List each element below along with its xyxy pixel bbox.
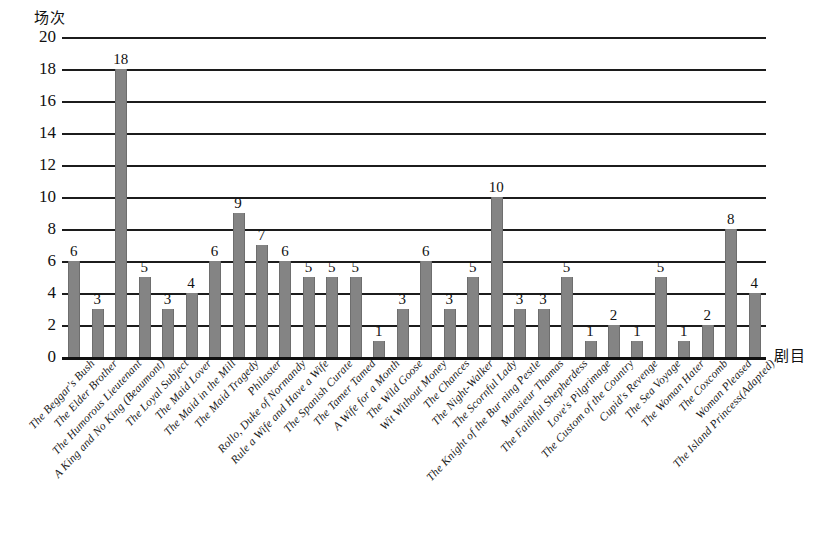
bar[interactable] (420, 261, 432, 357)
bar[interactable] (303, 277, 315, 357)
bar-group[interactable]: 4 (744, 37, 765, 357)
bar-group[interactable]: 6 (63, 37, 84, 357)
bar-group[interactable]: 1 (626, 37, 647, 357)
bar-group[interactable]: 5 (556, 37, 577, 357)
bar-group[interactable]: 3 (392, 37, 413, 357)
bar-group[interactable]: 3 (533, 37, 554, 357)
bar-value-label: 5 (134, 260, 155, 275)
bar[interactable] (514, 309, 526, 357)
bar-value-label: 9 (228, 196, 249, 211)
bar-group[interactable]: 6 (415, 37, 436, 357)
bar-group[interactable]: 6 (274, 37, 295, 357)
bar[interactable] (631, 341, 643, 357)
bar-group[interactable]: 3 (157, 37, 178, 357)
bar[interactable] (467, 277, 479, 357)
bar-value-label: 6 (204, 244, 225, 259)
bar-value-label: 5 (321, 260, 342, 275)
y-tick-label: 16 (16, 92, 56, 109)
bar[interactable] (702, 325, 714, 357)
y-axis-title: 场次 (34, 6, 66, 27)
bar-group[interactable]: 1 (580, 37, 601, 357)
bar-group[interactable]: 3 (439, 37, 460, 357)
bar-value-label: 3 (509, 292, 530, 307)
y-tick-label: 12 (16, 156, 56, 173)
y-tick-label: 2 (16, 316, 56, 333)
y-tick-label: 14 (16, 124, 56, 141)
bar-group[interactable]: 10 (486, 37, 507, 357)
bar-group[interactable]: 5 (345, 37, 366, 357)
bar[interactable] (326, 277, 338, 357)
bar[interactable] (139, 277, 151, 357)
bar-value-label: 3 (439, 292, 460, 307)
bar-value-label: 4 (181, 276, 202, 291)
bar-value-label: 2 (603, 308, 624, 323)
x-axis-labels: The Beggar's BushThe Elder BrotherThe Hu… (62, 357, 822, 546)
y-tick-label: 4 (16, 284, 56, 301)
bar-value-label: 1 (626, 324, 647, 339)
bar-value-label: 7 (251, 228, 272, 243)
bar-value-label: 5 (298, 260, 319, 275)
bar[interactable] (397, 309, 409, 357)
bar[interactable] (162, 309, 174, 357)
y-tick-label: 18 (16, 60, 56, 77)
bar-value-label: 18 (110, 52, 131, 67)
bar-group[interactable]: 1 (368, 37, 389, 357)
bar[interactable] (350, 277, 362, 357)
bar-value-label: 6 (274, 244, 295, 259)
bar[interactable] (68, 261, 80, 357)
plot-area: 63185346976555136351033512151284 (62, 37, 766, 357)
bar[interactable] (655, 277, 667, 357)
bar-value-label: 10 (486, 180, 507, 195)
bar-group[interactable]: 3 (509, 37, 530, 357)
bar-value-label: 2 (697, 308, 718, 323)
bar[interactable] (115, 69, 127, 357)
bar-chart: 场次 剧目 02468101214161820 6318534697655513… (0, 0, 823, 546)
bar-group[interactable]: 5 (462, 37, 483, 357)
bar[interactable] (749, 293, 761, 357)
y-tick-label: 6 (16, 252, 56, 269)
bar-group[interactable]: 5 (650, 37, 671, 357)
bar-group[interactable]: 4 (181, 37, 202, 357)
bar[interactable] (186, 293, 198, 357)
y-tick-label: 0 (16, 348, 56, 365)
bar-group[interactable]: 2 (603, 37, 624, 357)
bar-value-label: 3 (392, 292, 413, 307)
bar[interactable] (725, 229, 737, 357)
bar-value-label: 5 (345, 260, 366, 275)
bar[interactable] (209, 261, 221, 357)
bar-group[interactable]: 5 (321, 37, 342, 357)
bar-value-label: 6 (63, 244, 84, 259)
bar-group[interactable]: 3 (87, 37, 108, 357)
bar[interactable] (491, 197, 503, 357)
bar-group[interactable]: 7 (251, 37, 272, 357)
bar-group[interactable]: 18 (110, 37, 131, 357)
bar[interactable] (561, 277, 573, 357)
bar[interactable] (538, 309, 550, 357)
bars-layer: 63185346976555136351033512151284 (62, 37, 766, 357)
bar[interactable] (256, 245, 268, 357)
bar-value-label: 3 (157, 292, 178, 307)
bar-group[interactable]: 5 (298, 37, 319, 357)
bar-group[interactable]: 6 (204, 37, 225, 357)
bar[interactable] (678, 341, 690, 357)
bar[interactable] (608, 325, 620, 357)
bar-value-label: 1 (368, 324, 389, 339)
bar-value-label: 3 (87, 292, 108, 307)
bar-value-label: 8 (720, 212, 741, 227)
bar[interactable] (279, 261, 291, 357)
bar-group[interactable]: 5 (134, 37, 155, 357)
bar-value-label: 3 (533, 292, 554, 307)
bar-group[interactable]: 1 (673, 37, 694, 357)
bar[interactable] (444, 309, 456, 357)
bar-group[interactable]: 9 (228, 37, 249, 357)
bar-value-label: 5 (462, 260, 483, 275)
y-axis-ticks: 02468101214161820 (10, 37, 56, 357)
bar[interactable] (233, 213, 245, 357)
bar-value-label: 1 (673, 324, 694, 339)
bar[interactable] (92, 309, 104, 357)
bar-group[interactable]: 2 (697, 37, 718, 357)
bar[interactable] (585, 341, 597, 357)
bar[interactable] (373, 341, 385, 357)
y-tick-label: 8 (16, 220, 56, 237)
bar-group[interactable]: 8 (720, 37, 741, 357)
